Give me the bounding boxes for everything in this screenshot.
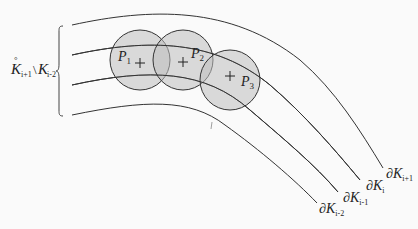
boundary-label-i-plus-1: ∂Ki+1 bbox=[386, 166, 413, 183]
region-label-sub1: i+1 bbox=[21, 70, 32, 79]
boundary-curve-i-minus-2 bbox=[72, 104, 317, 203]
setminus-symbol: \ bbox=[33, 62, 37, 77]
interior-accent: ° bbox=[14, 55, 18, 65]
region-label: K ° i+1 \ K i-2 bbox=[10, 55, 56, 79]
region-label-sub2: i-2 bbox=[47, 70, 56, 79]
stray-mark bbox=[211, 122, 212, 129]
boundary-label-i-minus-2: ∂Ki-2 bbox=[319, 201, 344, 218]
brace bbox=[56, 26, 63, 116]
diagram-canvas: P1 P2 P3 K ° i+1 \ K i-2 ∂Ki+1 ∂Ki ∂Ki-1… bbox=[0, 0, 418, 229]
boundary-label-i: ∂Ki bbox=[366, 178, 385, 195]
boundary-label-i-minus-1: ∂Ki-1 bbox=[343, 190, 368, 207]
